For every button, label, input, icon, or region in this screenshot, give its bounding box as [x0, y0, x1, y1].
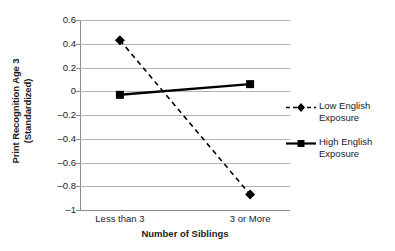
y-axis-tick-label: 0.6	[46, 15, 76, 25]
y-axis-title-line2: (Standardized)	[22, 79, 34, 144]
data-point-marker	[246, 80, 254, 88]
y-axis-tick-label: –0.4	[46, 134, 76, 144]
y-axis-tick-label: –0.6	[46, 158, 76, 168]
y-axis-tick-labels: 0.60.40.20–0.2–0.4–0.6–0.8–1	[46, 20, 76, 210]
y-axis-tick-mark	[76, 20, 80, 21]
y-axis-tick-label: 0.2	[46, 63, 76, 73]
legend-label-high-line2: Exposure	[319, 148, 394, 160]
y-axis-tick-mark	[76, 44, 80, 45]
print-recognition-line-chart: Print Recognition Age 3 (Standardized) 0…	[0, 0, 395, 251]
y-axis-title: Print Recognition Age 3 (Standardized)	[7, 13, 37, 209]
legend-item-high-english-exposure: High English Exposure	[286, 136, 394, 160]
legend-key-dashed-diamond-icon	[286, 100, 316, 113]
y-axis-tick-label: –0.2	[46, 110, 76, 120]
y-axis-tick-mark	[76, 163, 80, 164]
y-axis-tick-mark	[76, 68, 80, 69]
series-line	[120, 40, 250, 194]
data-point-marker	[245, 190, 255, 200]
gridline	[80, 210, 290, 211]
x-axis-tick-label: Less than 3	[95, 213, 144, 225]
y-axis-tick-label: –1	[46, 205, 76, 215]
y-axis-tick-mark	[76, 139, 80, 140]
legend-label-high-english-exposure: High English Exposure	[319, 136, 394, 160]
y-axis-tick-label: –0.8	[46, 181, 76, 191]
y-axis-tick-mark	[76, 210, 80, 211]
x-axis-tick-labels: Less than 33 or More	[80, 213, 290, 227]
x-axis-tick-label: 3 or More	[230, 213, 271, 225]
y-axis-tick-mark	[76, 186, 80, 187]
legend-label-low-line1: Low English	[319, 100, 370, 111]
plot-area	[80, 20, 290, 210]
y-axis-tick-label: 0	[46, 86, 76, 96]
legend-key-solid-square-icon	[286, 136, 316, 149]
legend-label-low-line2: Exposure	[319, 112, 394, 124]
chart-legend: Low English Exposure High English Exposu…	[286, 100, 394, 172]
y-axis-title-line1: Print Recognition Age 3	[10, 58, 22, 163]
y-axis-tick-mark	[76, 91, 80, 92]
series-overlay	[80, 20, 290, 210]
legend-label-low-english-exposure: Low English Exposure	[319, 100, 394, 124]
series-line	[120, 84, 250, 95]
legend-item-low-english-exposure: Low English Exposure	[286, 100, 394, 124]
x-axis-title: Number of Siblings	[80, 228, 290, 240]
y-axis-tick-mark	[76, 115, 80, 116]
data-point-marker	[116, 91, 124, 99]
y-axis-tick-label: 0.4	[46, 39, 76, 49]
legend-label-high-line1: High English	[319, 136, 372, 147]
